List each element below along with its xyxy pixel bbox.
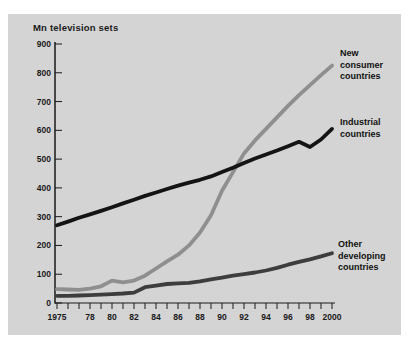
x-tick-label: 82 — [129, 312, 139, 322]
y-tick-label: 500 — [37, 154, 51, 164]
x-tick-label: 96 — [283, 312, 293, 322]
y-tick-label: 600 — [37, 125, 51, 135]
x-tick-label: 78 — [85, 312, 95, 322]
y-tick-label: 200 — [37, 240, 51, 250]
y-tick-label: 700 — [37, 97, 51, 107]
x-tick-label: 90 — [217, 312, 227, 322]
series-line-other-developing-countries — [57, 253, 332, 296]
x-tick-label: 88 — [195, 312, 205, 322]
series-line-new-consumer-countries — [57, 66, 332, 290]
chart-panel: Mn television sets 010020030040050060070… — [8, 14, 401, 335]
x-tick-label: 94 — [261, 312, 271, 322]
y-tick-label: 100 — [37, 269, 51, 279]
y-tick-label: 300 — [37, 212, 51, 222]
x-tick-label: 2000 — [323, 312, 342, 322]
y-tick-label: 900 — [37, 39, 51, 49]
y-tick-label: 400 — [37, 183, 51, 193]
x-tick-label: 92 — [239, 312, 249, 322]
legend-new-consumer-countries: New consumer countries — [340, 48, 383, 83]
x-tick-label: 98 — [305, 312, 315, 322]
x-tick-label: 1975 — [48, 312, 67, 322]
legend-industrial-countries: Industrial countries — [340, 117, 381, 140]
x-tick-label: 84 — [151, 312, 161, 322]
legend-other-developing-countries: Other developing countries — [338, 239, 386, 274]
y-tick-label: 800 — [37, 68, 51, 78]
series-line-industrial-countries — [57, 129, 332, 225]
x-tick-label: 86 — [173, 312, 183, 322]
x-tick-label: 80 — [107, 312, 117, 322]
y-tick-label: 0 — [46, 298, 51, 308]
